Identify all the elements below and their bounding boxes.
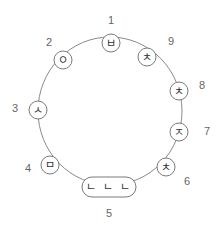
- node-8: ㅊ 8: [170, 79, 205, 100]
- node-5: ㄴ ㄴ ㄴ 5: [82, 177, 136, 219]
- node-number: 9: [168, 35, 174, 47]
- node-glyph: ㅈ: [174, 126, 184, 139]
- node-9: ㅊ 9: [138, 35, 174, 66]
- node-glyph: ㅂ: [106, 37, 116, 50]
- node-glyph: ㅅ: [33, 104, 43, 117]
- node-glyph: ㅊ: [174, 85, 184, 98]
- node-2: 2 ㅇ: [46, 36, 72, 69]
- node-number: 2: [46, 36, 52, 48]
- node-6: ㅊ 6: [157, 158, 190, 187]
- node-glyph: ㄴ ㄴ ㄴ: [86, 181, 133, 194]
- node-glyph: ㅁ: [45, 159, 55, 172]
- node-1: 1 ㅂ: [102, 14, 120, 52]
- node-number: 4: [25, 162, 31, 174]
- node-glyph: ㅇ: [58, 54, 68, 67]
- node-glyph: ㅊ: [161, 161, 171, 174]
- node-7: ㅈ 7: [170, 123, 210, 141]
- node-number: 6: [184, 175, 190, 187]
- node-number: 5: [106, 207, 112, 219]
- node-4: 4 ㅁ: [25, 156, 59, 174]
- node-3: 3 ㅅ: [12, 101, 47, 119]
- node-number: 1: [108, 14, 114, 26]
- node-glyph: ㅊ: [142, 51, 152, 64]
- circular-sequence-diagram: 1 ㅂ 2 ㅇ 3 ㅅ 4 ㅁ ㄴ ㄴ ㄴ 5 ㅊ 6 ㅈ 7 ㅊ: [0, 0, 224, 230]
- node-number: 3: [12, 102, 18, 114]
- node-number: 7: [204, 125, 210, 137]
- node-number: 8: [199, 79, 205, 91]
